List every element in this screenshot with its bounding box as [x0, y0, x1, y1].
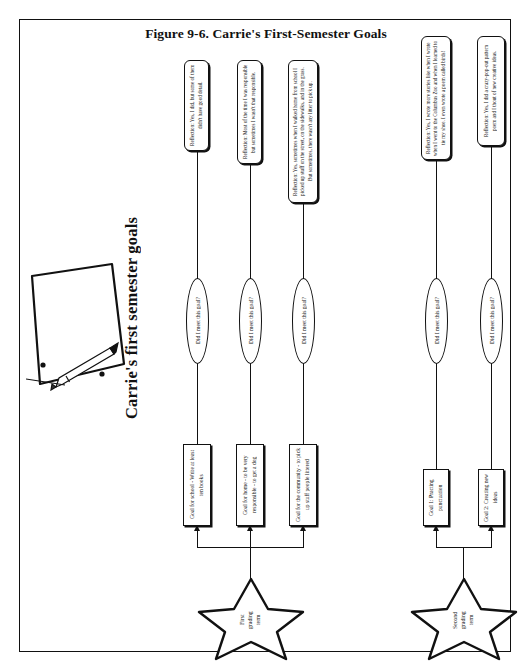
goal-box-home-text: Goal for home - to be very responsible -…	[237, 445, 263, 525]
goal-box-school-text: Goal for school - Write at least ten boo…	[184, 445, 210, 525]
connector-goal2-riser	[491, 529, 492, 548]
goal-box-punctuation: Goal 1: Practing punctuation	[423, 469, 449, 526]
goal-box-new-ideas: Goal 2: Creating new ideas	[478, 469, 504, 526]
reflection-box-community-text: Reflection: Yes, sometimes when I walked…	[289, 61, 317, 202]
connector-decision-community-to-reflection	[303, 202, 304, 279]
goal-box-school: Goal for school - Write at least ten boo…	[183, 444, 211, 526]
diagram-title: Carrie's first semester goals	[122, 233, 142, 419]
reflection-box-new-ideas: Reflection: Yes, I did a crazy-pop-out p…	[477, 36, 505, 146]
connector-decision-new-ideas-to-reflection	[491, 145, 492, 279]
connector-goal2-to-decision	[491, 363, 492, 470]
decision-oval-new-ideas: Did I meet this goal?	[480, 278, 503, 364]
connector-decision-home-to-reflection	[250, 163, 251, 279]
decision-oval-community: Did I meet this goal?	[292, 278, 315, 364]
connector-home-to-decision	[250, 363, 251, 445]
goal-box-home: Goal for home - to be very responsible -…	[236, 444, 264, 526]
decision-oval-school: Did I meet this goal?	[186, 278, 209, 364]
reflection-box-punctuation: Reflection: Yes, I wrote more stories li…	[421, 36, 451, 160]
reflection-box-punctuation-text: Reflection: Yes, I wrote more stories li…	[422, 37, 450, 159]
connector-school-to-decision	[197, 363, 198, 445]
decision-oval-home-text: Did I meet this goal?	[240, 279, 261, 363]
decision-oval-new-ideas-text: Did I meet this goal?	[481, 279, 502, 363]
star-first-grading-term: First grading term	[195, 576, 307, 662]
decision-oval-home: Did I meet this goal?	[239, 278, 262, 364]
paper-and-pencil-sketch	[26, 256, 131, 391]
connector-decision-school-to-reflection	[197, 150, 198, 279]
connector-goal-school-riser	[197, 529, 198, 548]
connector-goal1-riser	[436, 529, 437, 548]
decision-oval-community-text: Did I meet this goal?	[293, 279, 314, 363]
reflection-box-home-text: Reflection: Most of the time I was respo…	[238, 61, 261, 163]
goal-flow-diagram: Carrie's first semester goals First grad…	[20, 20, 512, 653]
star-second-grading-term: Second grading term	[408, 576, 520, 662]
reflection-box-new-ideas-text: Reflection: Yes, I did a crazy-pop-out p…	[478, 37, 504, 145]
connector-goal-community-riser	[303, 529, 304, 548]
goal-box-new-ideas-text: Goal 2: Creating new ideas	[479, 470, 503, 525]
connector-goal-home-riser	[250, 529, 251, 548]
reflection-box-home: Reflection: Most of the time I was respo…	[237, 60, 262, 164]
goal-box-community-text: Goal for the community - to pick up stuf…	[290, 445, 316, 525]
goal-box-community: Goal for the community - to pick up stuf…	[289, 444, 317, 526]
reflection-box-school: Reflection: Yes, I did, but some of them…	[184, 60, 209, 151]
connector-star2-trunk	[463, 547, 464, 579]
star-first-label: First grading term	[239, 598, 265, 642]
connector-star2-bar	[436, 547, 492, 548]
reflection-box-community: Reflection: Yes, sometimes when I walked…	[288, 60, 318, 203]
decision-oval-school-text: Did I meet this goal?	[187, 279, 208, 363]
connector-community-to-decision	[303, 363, 304, 445]
connector-goal1-to-decision	[436, 363, 437, 470]
connector-decision-punctuation-to-reflection	[436, 159, 437, 279]
connector-star1-trunk	[250, 547, 251, 579]
decision-oval-punctuation: Did I meet this goal?	[425, 278, 448, 364]
star-second-label: Second grading term	[452, 598, 478, 642]
figure-frame: Figure 9-6. Carrie's First-Semester Goal…	[19, 19, 511, 652]
decision-oval-punctuation-text: Did I meet this goal?	[426, 279, 447, 363]
reflection-box-school-text: Reflection: Yes, I did, but some of them…	[185, 61, 208, 150]
goal-box-punctuation-text: Goal 1: Practing punctuation	[424, 470, 448, 525]
